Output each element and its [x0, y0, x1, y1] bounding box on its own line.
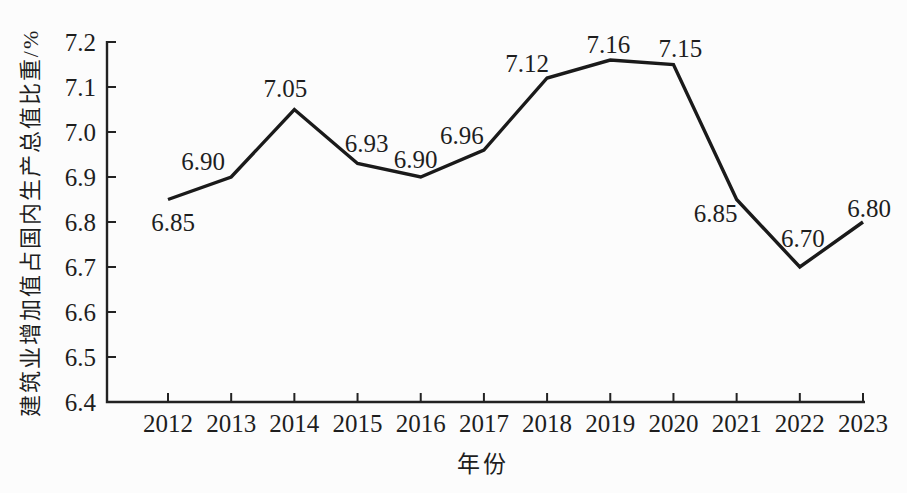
x-tick-label: 2023: [838, 410, 888, 437]
y-axis-title: 建筑业增加值占国内生产总值比重/%: [12, 29, 44, 417]
y-tick-label: 6.7: [65, 254, 96, 281]
x-tick-label: 2021: [712, 410, 762, 437]
y-tick-label: 6.8: [65, 209, 96, 236]
data-point-label: 6.80: [847, 195, 891, 222]
x-axis-title: 年份: [457, 445, 509, 479]
data-point-label: 6.70: [781, 225, 825, 252]
y-tick-label: 6.4: [65, 389, 97, 416]
data-point-label: 7.16: [586, 31, 630, 58]
data-point-label: 6.85: [151, 209, 195, 236]
chart-canvas: 6.46.56.66.76.86.97.07.17.22012201320142…: [0, 0, 907, 493]
data-point-label: 6.96: [440, 122, 484, 149]
x-tick-label: 2012: [143, 410, 193, 437]
y-tick-label: 6.9: [65, 164, 96, 191]
x-tick-label: 2013: [206, 410, 256, 437]
y-tick-label: 7.0: [65, 119, 96, 146]
x-tick-label: 2022: [775, 410, 825, 437]
x-tick-label: 2018: [522, 410, 572, 437]
y-tick-label: 7.1: [65, 74, 96, 101]
gdp-share-line-chart: 6.46.56.66.76.86.97.07.17.22012201320142…: [0, 0, 907, 493]
data-point-label: 7.12: [505, 50, 549, 77]
y-tick-label: 6.5: [65, 344, 96, 371]
x-tick-label: 2014: [269, 410, 320, 437]
y-tick-label: 7.2: [65, 29, 96, 56]
data-point-label: 6.90: [181, 148, 225, 175]
x-tick-label: 2019: [585, 410, 635, 437]
x-tick-label: 2015: [333, 410, 383, 437]
y-tick-label: 6.6: [65, 299, 96, 326]
x-tick-label: 2016: [396, 410, 446, 437]
x-tick-label: 2020: [648, 410, 698, 437]
data-point-label: 6.90: [394, 146, 438, 173]
axis-spine: [107, 41, 865, 402]
data-point-label: 7.05: [263, 75, 307, 102]
data-point-label: 6.93: [345, 130, 389, 157]
data-point-label: 7.15: [659, 35, 703, 62]
data-point-label: 6.85: [694, 200, 738, 227]
x-tick-label: 2017: [459, 410, 509, 437]
